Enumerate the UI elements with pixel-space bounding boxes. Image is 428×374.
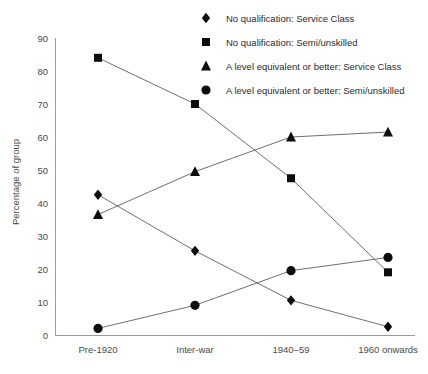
line-chart: Percentage of group 0102030405060708090 … — [0, 0, 428, 374]
legend-item[interactable]: A level equivalent or better: Semi/unski… — [201, 85, 404, 96]
legend-marker-icon — [201, 61, 211, 71]
data-point-marker — [94, 190, 102, 200]
y-tick-label: 90 — [37, 33, 48, 44]
chart-legend: No qualification: Service ClassNo qualif… — [201, 13, 405, 96]
y-tick-label: 20 — [37, 264, 48, 275]
x-category-label: Inter-war — [176, 344, 213, 355]
data-point-marker — [287, 174, 295, 182]
y-axis-title: Percentage of group — [10, 139, 21, 225]
series-layer — [93, 54, 393, 333]
data-point-marker — [190, 166, 200, 176]
series-line — [98, 132, 388, 215]
x-category-label: Pre-1920 — [78, 344, 117, 355]
data-point-marker — [93, 324, 102, 333]
y-tick-label: 30 — [37, 231, 48, 242]
y-tick-label: 70 — [37, 99, 48, 110]
data-point-marker — [94, 54, 102, 62]
chart-container: Percentage of group 0102030405060708090 … — [0, 0, 428, 374]
series-line — [98, 195, 388, 327]
x-category-label: 1940–59 — [273, 344, 310, 355]
legend-label: No qualification: Service Class — [226, 13, 355, 24]
data-point-marker — [384, 268, 392, 276]
legend-label: A level equivalent or better: Semi/unski… — [226, 85, 405, 96]
data-point-marker — [191, 100, 199, 108]
y-tick-label: 0 — [43, 330, 48, 341]
y-tick-label: 50 — [37, 165, 48, 176]
series-group — [94, 190, 392, 332]
y-axis-title-group: Percentage of group — [10, 139, 21, 225]
legend-label: A level equivalent or better: Service Cl… — [226, 61, 402, 72]
legend-label: No qualification: Semi/unskilled — [226, 37, 357, 48]
legend-marker-icon — [202, 38, 210, 46]
series-line — [98, 257, 388, 328]
data-point-marker — [383, 127, 393, 137]
y-tick-label: 40 — [37, 198, 48, 209]
data-point-marker — [191, 246, 199, 256]
legend-item[interactable]: No qualification: Service Class — [202, 13, 355, 24]
data-point-marker — [286, 266, 295, 275]
legend-item[interactable]: No qualification: Semi/unskilled — [202, 37, 357, 48]
legend-item[interactable]: A level equivalent or better: Service Cl… — [201, 61, 402, 72]
y-tick-label: 60 — [37, 132, 48, 143]
data-point-marker — [287, 295, 295, 305]
legend-marker-icon — [201, 85, 210, 94]
series-group — [93, 253, 392, 333]
data-point-marker — [383, 253, 392, 262]
data-point-marker — [384, 322, 392, 332]
legend-marker-icon — [202, 13, 210, 23]
y-axis-tick-labels: 0102030405060708090 — [37, 33, 48, 341]
y-tick-label: 80 — [37, 66, 48, 77]
y-tick-label: 10 — [37, 297, 48, 308]
data-point-marker — [190, 301, 199, 310]
x-axis-category-labels: Pre-1920Inter-war1940–591960 onwards — [78, 344, 418, 355]
x-category-label: 1960 onwards — [358, 344, 418, 355]
data-point-marker — [93, 209, 103, 219]
